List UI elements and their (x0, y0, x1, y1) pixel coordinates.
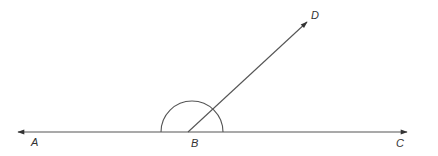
point-label-a: A (30, 136, 38, 148)
point-label-c: C (396, 137, 404, 149)
angle-arc-icon (161, 101, 223, 132)
point-label-d: D (311, 9, 319, 21)
angle-diagram: A B C D (0, 0, 438, 156)
point-label-b: B (191, 137, 198, 149)
ray-BD (188, 22, 307, 132)
